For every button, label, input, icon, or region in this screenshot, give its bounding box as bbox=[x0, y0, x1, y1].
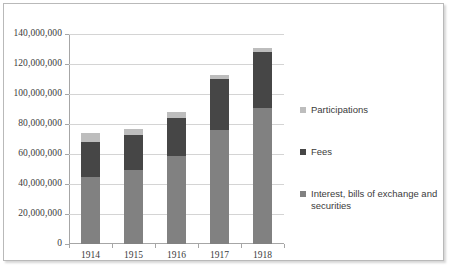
legend-label: Fees bbox=[311, 146, 332, 158]
legend-swatch-icon bbox=[300, 149, 306, 155]
bar-segment[interactable] bbox=[253, 108, 272, 244]
bar-segment[interactable] bbox=[81, 177, 100, 244]
y-axis-tick bbox=[65, 154, 69, 155]
legend-item[interactable]: Participations bbox=[300, 104, 368, 116]
gridline bbox=[69, 64, 284, 65]
gridline bbox=[69, 94, 284, 95]
bar-1918[interactable] bbox=[253, 48, 272, 245]
y-axis-tick-label: 120,000,000 bbox=[13, 58, 62, 68]
x-axis-tick bbox=[284, 244, 285, 248]
chart-frame: 020,000,00040,000,00060,000,00080,000,00… bbox=[3, 3, 444, 261]
y-axis-tick bbox=[65, 94, 69, 95]
bar-segment[interactable] bbox=[124, 135, 143, 170]
y-axis-tick bbox=[65, 184, 69, 185]
x-axis-tick bbox=[112, 244, 113, 248]
bar-1917[interactable] bbox=[210, 75, 229, 244]
y-axis-tick bbox=[65, 64, 69, 65]
plot-area bbox=[69, 34, 284, 244]
y-axis-labels: 020,000,00040,000,00060,000,00080,000,00… bbox=[4, 34, 62, 244]
y-axis-tick-label: 40,000,000 bbox=[18, 178, 62, 188]
bar-segment[interactable] bbox=[253, 52, 272, 108]
y-axis-tick-label: 60,000,000 bbox=[18, 148, 62, 158]
gridline bbox=[69, 34, 284, 35]
bar-segment[interactable] bbox=[167, 118, 186, 156]
legend-label: Participations bbox=[311, 104, 368, 116]
x-axis-tick bbox=[241, 244, 242, 248]
bar-segment[interactable] bbox=[81, 142, 100, 177]
x-axis-tick bbox=[155, 244, 156, 248]
y-axis-tick bbox=[65, 214, 69, 215]
y-axis-tick bbox=[65, 124, 69, 125]
x-axis-tick bbox=[69, 244, 70, 248]
bar-segment[interactable] bbox=[81, 133, 100, 142]
bar-segment[interactable] bbox=[167, 156, 186, 244]
x-axis-label-1917: 1917 bbox=[200, 250, 240, 260]
y-axis-tick bbox=[65, 34, 69, 35]
x-axis-label-1918: 1918 bbox=[243, 250, 283, 260]
bar-1915[interactable] bbox=[124, 129, 143, 245]
legend-label: Interest, bills of exchange and securiti… bbox=[311, 188, 440, 212]
legend-item[interactable]: Interest, bills of exchange and securiti… bbox=[300, 188, 440, 212]
bar-segment[interactable] bbox=[210, 79, 229, 130]
legend-swatch-icon bbox=[300, 191, 306, 197]
x-axis-label-1916: 1916 bbox=[157, 250, 197, 260]
y-axis-tick-label: 100,000,000 bbox=[13, 88, 62, 98]
x-axis-tick bbox=[198, 244, 199, 248]
bar-1914[interactable] bbox=[81, 133, 100, 244]
y-axis-tick-label: 140,000,000 bbox=[13, 28, 62, 38]
y-axis-line bbox=[69, 34, 70, 244]
y-axis-tick-label: 0 bbox=[57, 238, 62, 248]
y-axis-tick-label: 20,000,000 bbox=[18, 208, 62, 218]
legend-item[interactable]: Fees bbox=[300, 146, 332, 158]
x-axis-label-1915: 1915 bbox=[114, 250, 154, 260]
x-axis-label-1914: 1914 bbox=[71, 250, 111, 260]
y-axis-tick-label: 80,000,000 bbox=[18, 118, 62, 128]
bar-1916[interactable] bbox=[167, 112, 186, 244]
bar-segment[interactable] bbox=[210, 130, 229, 244]
legend-swatch-icon bbox=[300, 107, 306, 113]
bar-segment[interactable] bbox=[124, 170, 143, 244]
